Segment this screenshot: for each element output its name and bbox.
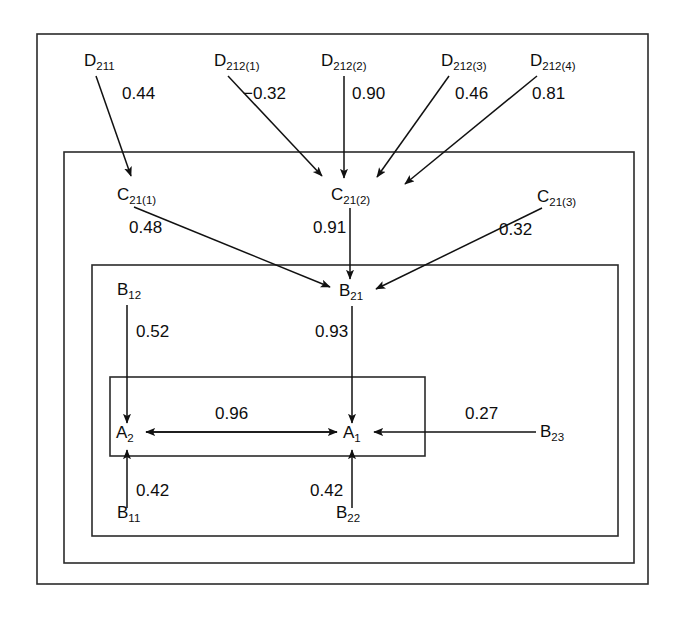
- coef-C21_2-B21: 0.91: [313, 218, 346, 237]
- node-label-B11: B11: [117, 503, 140, 524]
- b-level-frame: [92, 265, 618, 536]
- node-label-D212-2: D212(2): [321, 51, 367, 72]
- node-label-B12: B12: [117, 280, 141, 301]
- node-label-C21-2: C21(2): [331, 185, 370, 206]
- outermost-frame: [37, 34, 648, 584]
- node-label-D212-4: D212(4): [530, 51, 576, 72]
- node-label-D212-1: D212(1): [214, 51, 260, 72]
- coef-D212_4-C21_2: 0.81: [532, 84, 565, 103]
- node-label-B23: B23: [540, 422, 564, 443]
- a-level-frame: [110, 377, 425, 456]
- coef-A2-A1: 0.96: [215, 404, 248, 423]
- node-label-D211: D211: [84, 51, 115, 72]
- node-label-A1: A1: [343, 423, 361, 444]
- coef-B23-A1: 0.27: [465, 404, 498, 423]
- coef-B22-A1: 0.42: [310, 481, 343, 500]
- node-label-C21-1: C21(1): [117, 185, 156, 206]
- coef-B12-A2: 0.52: [136, 322, 169, 341]
- node-label-A2: A2: [116, 423, 134, 444]
- coef-C21_1-B21: 0.48: [129, 218, 162, 237]
- coef-B21-A1: 0.93: [315, 322, 348, 341]
- node-label-C21-3: C21(3): [537, 187, 576, 208]
- coef-D212_3-C21_2: 0.46: [455, 84, 488, 103]
- coef-B11-A2: 0.42: [136, 481, 169, 500]
- coef-C21_3-B21: 0.32: [499, 220, 532, 239]
- edge-D212_3-to-C21_2: [377, 76, 449, 177]
- edge-C21_1-to-B21: [134, 207, 330, 287]
- node-label-B21: B21: [339, 281, 363, 302]
- coef-D212_1-C21_2: −0.32: [243, 84, 286, 103]
- coef-D212_2-C21_2: 0.90: [352, 84, 385, 103]
- path-diagram-container: D211 D212(1) D212(2) D212(3) D212(4) C21…: [0, 0, 688, 625]
- node-label-D212-3: D212(3): [441, 51, 487, 72]
- coef-D211-C21_1: 0.44: [122, 84, 155, 103]
- path-diagram-canvas: D211 D212(1) D212(2) D212(3) D212(4) C21…: [0, 0, 688, 625]
- node-label-B22: B22: [336, 503, 360, 524]
